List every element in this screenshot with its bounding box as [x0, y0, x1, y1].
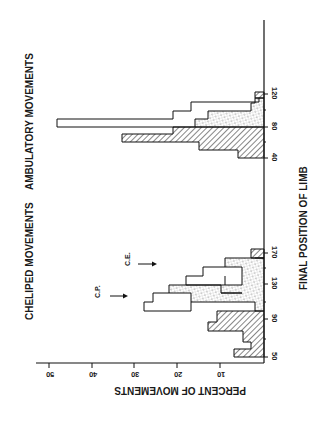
ambulatory-hatched-right	[255, 92, 264, 98]
percent-tick-labels: 10 20 30 40 50	[46, 370, 225, 379]
ytick-40: 40	[89, 370, 97, 379]
panel-title-cheliped: CHELIPED MOVEMENTS	[24, 202, 35, 320]
cheliped-hatched-series	[208, 311, 264, 357]
x-axis-title: FINAL POSITION OF LIMB	[298, 166, 309, 290]
ambulatory-hatched-series	[122, 127, 264, 158]
position-tick-labels: 50 90 130 170 40 80 120	[270, 87, 279, 360]
cheliped-tick-130: 130	[270, 277, 279, 290]
ce-arrowhead-icon	[152, 262, 157, 267]
ambulatory-tick-40: 40	[270, 153, 279, 161]
cheliped-histogram	[144, 249, 264, 357]
y-axis-title: PERCENT OF MOVEMENTS	[114, 385, 246, 396]
ambulatory-tick-120: 120	[270, 87, 279, 100]
cheliped-annotations: C.P. C.E.	[94, 252, 157, 298]
percent-ticks	[49, 363, 220, 368]
ambulatory-histogram	[57, 92, 264, 158]
cheliped-hatched-right	[251, 249, 264, 258]
cheliped-tick-90: 90	[270, 314, 279, 322]
histogram-chart: 10 20 30 40 50 50 90 130 170 40 80 120	[0, 0, 313, 423]
panel-title-ambulatory: AMBULATORY MOVEMENTS	[24, 53, 35, 190]
ytick-30: 30	[131, 370, 139, 379]
cp-arrowhead-icon	[123, 294, 128, 299]
annotation-ce: C.E.	[124, 252, 131, 266]
annotation-cp: C.P.	[94, 285, 101, 298]
ytick-50: 50	[46, 370, 54, 379]
cheliped-tick-170: 170	[270, 246, 279, 259]
ambulatory-tick-80: 80	[270, 122, 279, 130]
ytick-20: 20	[174, 370, 182, 379]
cheliped-tick-50: 50	[270, 352, 279, 360]
ytick-10: 10	[217, 370, 225, 379]
